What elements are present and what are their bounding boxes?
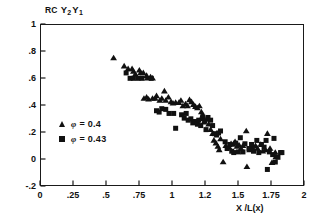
chart-title-y1: Y1: [72, 4, 83, 15]
plot-area: [40, 24, 304, 186]
chart-legend: φ = 0.4 φ = 0.43: [57, 116, 106, 146]
data-point-series-1: [124, 70, 129, 75]
data-point-series-0: [243, 128, 250, 134]
y-tick-label: 0: [14, 154, 36, 164]
data-point-series-1: [273, 160, 278, 165]
data-point-series-0: [161, 88, 168, 94]
legend-item-phi-04: φ = 0.4: [57, 116, 106, 131]
chart-title: RCY2Y1: [45, 4, 83, 15]
chart-title-y2: Y2: [61, 4, 72, 15]
legend-label-phi-043: φ = 0.43: [71, 134, 106, 144]
y-tick-label: .4: [14, 100, 36, 110]
data-point-series-1: [279, 150, 284, 155]
data-point-series-0: [121, 63, 128, 69]
data-point-series-1: [264, 138, 269, 143]
data-point-series-1: [256, 150, 261, 155]
data-point-series-1: [167, 111, 172, 116]
data-point-series-0: [153, 93, 160, 99]
data-point-series-1: [218, 128, 223, 133]
data-point-series-0: [244, 163, 251, 169]
x-axis-label: X /L(x): [236, 203, 264, 213]
y-tick-label: .2: [14, 127, 36, 137]
data-point-series-1: [204, 127, 209, 132]
data-point-series-1: [210, 123, 215, 128]
square-marker-icon: [57, 134, 67, 144]
data-point-series-1: [198, 123, 203, 128]
data-point-series-1: [265, 167, 270, 172]
data-point-series-1: [227, 142, 232, 147]
data-point-series-0: [264, 130, 271, 136]
data-point-series-0: [165, 94, 172, 100]
data-point-series-1: [223, 139, 228, 144]
data-point-series-1: [139, 76, 144, 81]
data-point-series-1: [270, 152, 275, 157]
x-tick-label: 1.5: [223, 190, 253, 200]
data-point-series-1: [184, 111, 189, 116]
x-tick-label: .5: [91, 190, 121, 200]
x-tick-label: 0: [25, 190, 55, 200]
data-point-series-1: [271, 136, 276, 141]
legend-label-phi-04: φ = 0.4: [71, 119, 101, 129]
data-point-series-0: [110, 55, 117, 61]
chart-figure: RCY2Y1 1.8.6.4.20-.2 0.25.5.7511.21.51.7…: [0, 0, 318, 220]
x-tick-label: 1.2: [190, 190, 220, 200]
x-tick-label: 1.75: [256, 190, 286, 200]
x-tick-label: .25: [58, 190, 88, 200]
triangle-marker-icon: [57, 119, 67, 129]
data-points-layer: [41, 25, 305, 187]
x-tick-label: 1: [157, 190, 187, 200]
data-point-series-1: [208, 118, 213, 123]
data-point-series-1: [242, 141, 247, 146]
chart-title-prefix: RC: [45, 5, 58, 15]
legend-item-phi-043: φ = 0.43: [57, 131, 106, 146]
data-point-series-1: [173, 126, 178, 131]
x-tick-label: 2: [289, 190, 318, 200]
data-point-series-1: [236, 149, 241, 154]
data-point-series-1: [254, 138, 259, 143]
data-point-series-1: [249, 142, 254, 147]
data-point-series-1: [275, 155, 280, 160]
data-point-series-1: [231, 150, 236, 155]
x-tick-label: .75: [124, 190, 154, 200]
data-point-series-1: [131, 76, 136, 81]
y-tick-label: .6: [14, 73, 36, 83]
y-tick-label: 1: [14, 19, 36, 29]
data-point-series-1: [240, 149, 245, 154]
data-point-series-1: [238, 135, 243, 140]
data-point-series-1: [262, 145, 267, 150]
data-point-series-1: [233, 141, 238, 146]
data-point-series-1: [171, 111, 176, 116]
y-tick-label: .8: [14, 46, 36, 56]
data-point-series-1: [251, 149, 256, 154]
data-point-series-1: [149, 76, 154, 81]
data-point-series-0: [220, 159, 227, 165]
